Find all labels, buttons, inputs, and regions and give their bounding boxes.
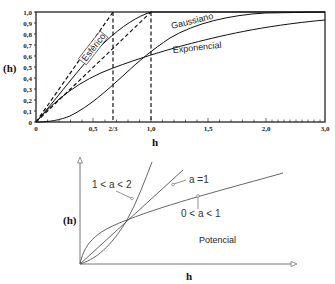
x-axis-arrow-icon <box>291 262 297 267</box>
linear-marker-icon <box>172 183 175 186</box>
x-tick-label: 1,0 <box>147 125 156 133</box>
y-tick-label: 0,3 <box>23 86 32 94</box>
y-axis-arrow-icon <box>78 157 83 163</box>
top-y-axis-label: (h) <box>3 62 17 75</box>
concave-marker-icon <box>197 195 200 198</box>
gaussian-label: Gaussiano <box>170 11 214 31</box>
exponential-curve <box>36 20 325 122</box>
y-tick-label: 0,7 <box>23 42 32 50</box>
exponential-tangent-line <box>36 12 151 122</box>
convex-curve <box>80 162 152 264</box>
x-tick-label: 1,5 <box>204 125 213 133</box>
y-tick-label: 0,8 <box>23 31 32 39</box>
convex-label: 1 < a < 2 <box>92 179 132 190</box>
top-x-axis-label: h <box>152 136 158 148</box>
y-tick-label: 0,4 <box>23 75 32 83</box>
exponential-label: Exponencial <box>172 40 222 55</box>
x-tick-label: 0 <box>34 125 38 133</box>
x-tick-label: 3,0 <box>321 125 330 133</box>
bottom-x-axis-label: h <box>186 270 192 282</box>
y-tick-label: 0,9 <box>23 20 32 28</box>
spherical-label: Esférico <box>80 31 108 63</box>
potencial-label: Potencial <box>199 235 236 245</box>
y-tick-label: 0,2 <box>23 97 32 105</box>
top-x-tick-labels: 0 0,5 2/3 1,0 1,5 2,0 3,0 <box>34 125 330 133</box>
bottom-chart: (h) h 1 < a < 2 a =1 0 < a < 1 Potencial <box>63 157 297 282</box>
linear-label: a =1 <box>189 174 209 185</box>
y-tick-label: 0 <box>29 119 33 127</box>
x-tick-label: 2,0 <box>262 125 271 133</box>
top-y-tick-labels: 0 0,1 0,2 0,3 0,4 0,5 0,6 0,7 0,8 0,9 1,… <box>23 9 32 127</box>
convex-marker-icon <box>131 197 134 200</box>
spherical-label-group: Esférico <box>78 31 107 65</box>
figure-canvas: 0 0,1 0,2 0,3 0,4 0,5 0,6 0,7 0,8 0,9 1,… <box>0 0 335 284</box>
y-tick-label: 1,0 <box>23 9 32 17</box>
bottom-y-axis-label: (h) <box>63 214 77 227</box>
concave-label: 0 < a < 1 <box>181 208 221 219</box>
x-tick-label: 2/3 <box>109 125 118 133</box>
y-tick-label: 0,6 <box>23 53 32 61</box>
y-tick-label: 0,1 <box>23 108 32 116</box>
y-tick-label: 0,5 <box>23 64 32 72</box>
top-chart: 0 0,1 0,2 0,3 0,4 0,5 0,6 0,7 0,8 0,9 1,… <box>3 9 330 149</box>
convex-leader-line <box>116 191 131 198</box>
x-tick-label: 0,5 <box>89 125 98 133</box>
spherical-tangent-line <box>36 12 113 122</box>
linear-leader-line <box>174 180 186 184</box>
